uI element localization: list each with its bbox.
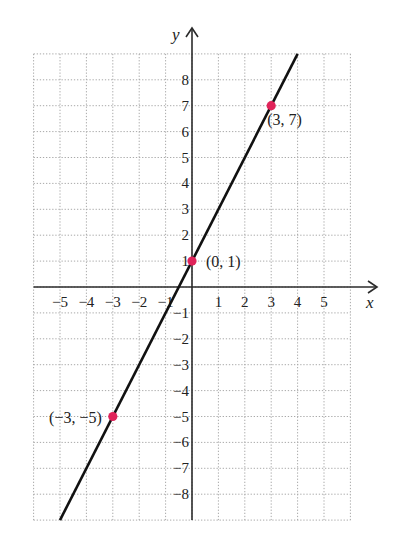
- y-tick-label: 4: [182, 175, 190, 191]
- y-tick-label: −5: [173, 409, 189, 425]
- x-tick-label: 1: [215, 294, 223, 310]
- y-tick-label: −3: [173, 357, 189, 373]
- y-tick-label: 2: [182, 227, 190, 243]
- y-tick-label: −4: [173, 383, 189, 399]
- y-axis-label: y: [170, 25, 180, 44]
- y-tick-label: −7: [173, 460, 189, 476]
- y-tick-label: −2: [173, 331, 189, 347]
- x-tick-label: 5: [320, 294, 328, 310]
- y-tick-label: 7: [182, 98, 190, 114]
- y-tick-label: −8: [173, 486, 189, 502]
- data-point: [108, 412, 117, 421]
- point-label: (3, 7): [267, 111, 302, 129]
- y-tick-label: 3: [182, 201, 190, 217]
- x-tick-label: 3: [267, 294, 275, 310]
- x-axis-label: x: [365, 293, 374, 312]
- x-tick-labels: −5−4−3−2−112345: [52, 294, 328, 310]
- data-point: [267, 101, 276, 110]
- y-tick-label: −6: [173, 434, 189, 450]
- x-tick-label: −5: [52, 294, 68, 310]
- y-tick-label: 6: [182, 124, 190, 140]
- data-points: (3, 7)(0, 1)(−3, −5): [49, 101, 302, 426]
- y-tick-label: 8: [182, 72, 190, 88]
- y-tick-label: 5: [182, 150, 190, 166]
- coordinate-plane: x y −5−4−3−2−112345 87654321−1−2−3−4−5−6…: [0, 0, 400, 543]
- point-label: (0, 1): [206, 253, 241, 271]
- data-point: [187, 257, 196, 266]
- y-tick-label: −1: [173, 305, 189, 321]
- x-tick-label: −4: [78, 294, 94, 310]
- axes: x y: [34, 25, 377, 520]
- point-label: (−3, −5): [49, 409, 102, 427]
- x-tick-label: 2: [241, 294, 249, 310]
- x-tick-label: −3: [105, 294, 121, 310]
- x-tick-label: 4: [294, 294, 302, 310]
- x-tick-label: −2: [131, 294, 147, 310]
